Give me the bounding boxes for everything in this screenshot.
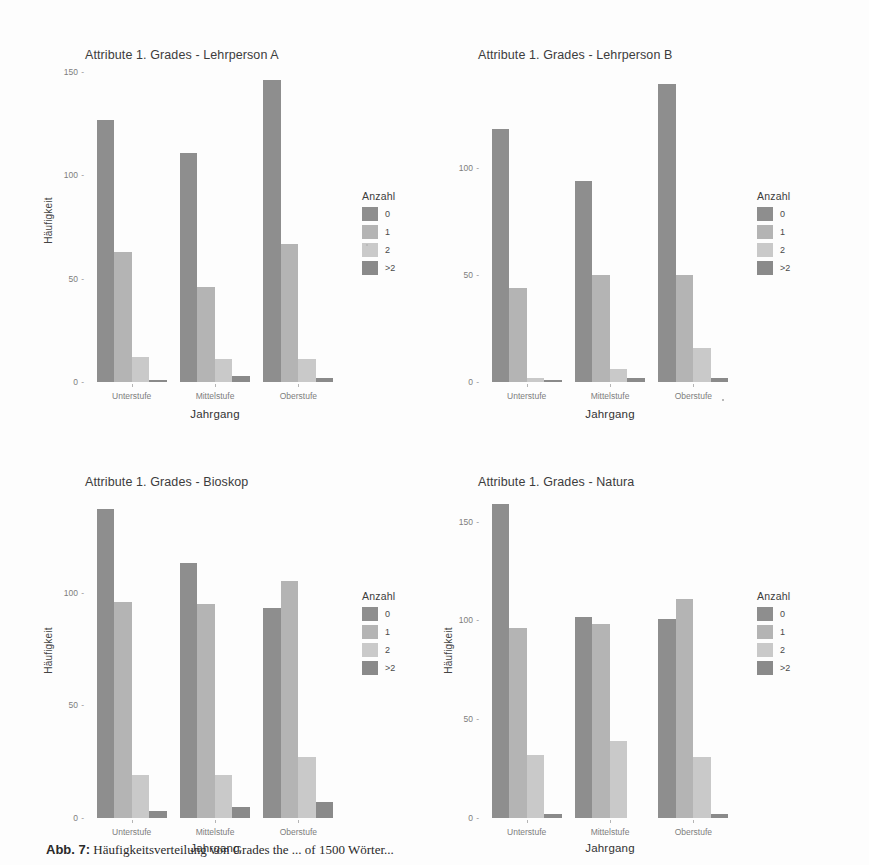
legend-item[interactable]: 0 bbox=[757, 606, 790, 622]
bar-group bbox=[173, 498, 256, 818]
chart-panel-lehrperson-b: Attribute 1. Grades - Lehrperson B 0-50-… bbox=[430, 0, 869, 432]
y-tick-mark: - bbox=[475, 163, 479, 173]
legend-swatch-icon bbox=[757, 207, 773, 221]
y-tick-mark: - bbox=[475, 714, 479, 724]
bar[interactable] bbox=[492, 504, 510, 818]
bar[interactable] bbox=[97, 120, 115, 382]
bar[interactable] bbox=[281, 244, 299, 382]
bar[interactable] bbox=[197, 287, 215, 382]
legend-item[interactable]: >2 bbox=[757, 660, 790, 676]
y-axis-tick: 50- bbox=[439, 270, 479, 280]
legend-item[interactable]: >2 bbox=[362, 660, 395, 676]
legend-label: 0 bbox=[385, 209, 390, 219]
bar[interactable] bbox=[180, 563, 198, 818]
bar[interactable] bbox=[263, 608, 281, 818]
legend-swatch-icon bbox=[362, 207, 378, 221]
legend-swatch-icon bbox=[757, 643, 773, 657]
legend-label: 0 bbox=[385, 609, 390, 619]
bar[interactable] bbox=[316, 378, 334, 382]
x-tick-mark bbox=[132, 820, 133, 823]
legend-item[interactable]: 0 bbox=[362, 606, 395, 622]
legend-item[interactable]: 1 bbox=[757, 624, 790, 640]
bar[interactable] bbox=[711, 378, 729, 382]
y-axis-tick: 0- bbox=[44, 377, 84, 387]
bar[interactable] bbox=[509, 628, 527, 818]
bar[interactable] bbox=[316, 802, 334, 818]
bar-group bbox=[485, 498, 568, 818]
legend-title: Anzahl bbox=[757, 190, 790, 202]
bar[interactable] bbox=[149, 811, 167, 818]
x-tick-mark bbox=[693, 820, 694, 823]
bar[interactable] bbox=[592, 275, 610, 382]
legend-label: >2 bbox=[780, 663, 790, 673]
bar[interactable] bbox=[180, 153, 198, 382]
bar[interactable] bbox=[658, 619, 676, 819]
x-axis-tick: Unterstufe bbox=[487, 391, 567, 401]
x-axis-tick: Mittelstufe bbox=[175, 827, 255, 837]
bar[interactable] bbox=[693, 348, 711, 382]
bar[interactable] bbox=[232, 807, 250, 818]
bar[interactable] bbox=[711, 814, 729, 818]
chart-title: Attribute 1. Grades - Lehrperson A bbox=[85, 48, 279, 62]
legend-label: >2 bbox=[780, 263, 790, 273]
bar[interactable] bbox=[232, 376, 250, 382]
x-axis-tick: Unterstufe bbox=[487, 827, 567, 837]
legend-swatch-icon bbox=[362, 261, 378, 275]
y-axis-tick: 100- bbox=[439, 163, 479, 173]
x-tick-mark bbox=[215, 820, 216, 823]
bar[interactable] bbox=[298, 359, 316, 382]
legend-swatch-icon bbox=[362, 607, 378, 621]
plot-area: 0-50-100-150-UnterstufeMittelstufeOberst… bbox=[90, 68, 340, 382]
legend-label: 1 bbox=[385, 227, 390, 237]
legend-item[interactable]: >2 bbox=[757, 260, 790, 276]
legend-item[interactable]: 1 bbox=[362, 624, 395, 640]
legend-swatch-icon bbox=[362, 625, 378, 639]
bar[interactable] bbox=[132, 775, 150, 818]
bar[interactable] bbox=[132, 357, 150, 382]
bar-group bbox=[568, 498, 651, 818]
bar[interactable] bbox=[592, 624, 610, 818]
bar[interactable] bbox=[197, 604, 215, 818]
bar[interactable] bbox=[627, 378, 645, 382]
bar[interactable] bbox=[544, 814, 562, 818]
bar[interactable] bbox=[693, 757, 711, 818]
bar[interactable] bbox=[281, 581, 299, 818]
bar[interactable] bbox=[676, 599, 694, 818]
legend-item[interactable]: 2 bbox=[362, 642, 395, 658]
bar[interactable] bbox=[492, 129, 510, 382]
bar[interactable] bbox=[263, 80, 281, 382]
x-axis-tick: Mittelstufe bbox=[570, 827, 650, 837]
bar[interactable] bbox=[610, 741, 628, 818]
bar[interactable] bbox=[215, 359, 233, 382]
x-tick-mark bbox=[298, 820, 299, 823]
bar[interactable] bbox=[114, 602, 132, 818]
bar-group bbox=[90, 68, 173, 382]
legend-item[interactable]: 1 bbox=[757, 224, 790, 240]
bar[interactable] bbox=[527, 755, 545, 818]
bar[interactable] bbox=[544, 380, 562, 382]
bar[interactable] bbox=[97, 509, 115, 818]
legend-item[interactable]: 2 bbox=[757, 642, 790, 658]
x-tick-mark bbox=[693, 384, 694, 387]
legend-item[interactable]: 1 bbox=[362, 224, 395, 240]
bar[interactable] bbox=[215, 775, 233, 818]
legend-item[interactable]: 2 bbox=[757, 242, 790, 258]
bar[interactable] bbox=[509, 288, 527, 382]
bar[interactable] bbox=[527, 378, 545, 382]
legend-swatch-icon bbox=[362, 225, 378, 239]
bar[interactable] bbox=[149, 380, 167, 382]
plot-area: 0-50-100-UnterstufeMittelstufeOberstufe bbox=[90, 498, 340, 818]
legend-swatch-icon bbox=[757, 625, 773, 639]
legend-item[interactable]: 0 bbox=[757, 206, 790, 222]
legend-item[interactable]: >2 bbox=[362, 260, 395, 276]
legend-label: 2 bbox=[385, 645, 390, 655]
legend-item[interactable]: 0 bbox=[362, 206, 395, 222]
bar[interactable] bbox=[575, 181, 593, 382]
bar[interactable] bbox=[114, 252, 132, 382]
bar[interactable] bbox=[658, 84, 676, 382]
y-tick-mark: - bbox=[475, 270, 479, 280]
bar[interactable] bbox=[575, 617, 593, 818]
bar[interactable] bbox=[298, 757, 316, 818]
bar[interactable] bbox=[676, 275, 694, 382]
bar[interactable] bbox=[610, 369, 628, 382]
